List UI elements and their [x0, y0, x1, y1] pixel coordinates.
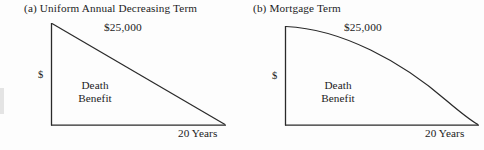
chart-panel-uniform-annual-decreasing-term: (a) Uniform Annual Decreasing Term $25,0…	[0, 0, 242, 150]
benefit-curve-b	[286, 27, 478, 125]
x-axis-label-a: 20 Years	[178, 127, 217, 139]
area-label-a-line1: Death	[63, 79, 127, 92]
benefit-curve-a	[52, 24, 225, 125]
chart-panel-mortgage-term: (b) Mortgage Term $25,000 $ Death Benefi…	[242, 0, 484, 150]
area-label-b-line2: Benefit	[306, 92, 370, 105]
figure-container: (a) Uniform Annual Decreasing Term $25,0…	[0, 0, 484, 150]
x-axis-label-b: 20 Years	[425, 127, 464, 139]
area-label-a: Death Benefit	[63, 79, 127, 105]
area-label-a-line2: Benefit	[63, 92, 127, 105]
area-label-b: Death Benefit	[306, 79, 370, 105]
amount-label-a: $25,000	[104, 21, 142, 33]
area-label-b-line1: Death	[306, 79, 370, 92]
y-axis-label-a: $	[38, 69, 43, 80]
y-axis-label-b: $	[272, 70, 277, 81]
amount-label-b: $25,000	[344, 21, 382, 33]
